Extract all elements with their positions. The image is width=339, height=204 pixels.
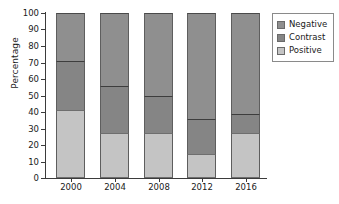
bar-segment-contrast[interactable] bbox=[56, 61, 85, 111]
bar-segment-negative[interactable] bbox=[56, 13, 85, 61]
y-tick-label: 0 bbox=[15, 174, 39, 183]
y-tick-label-text: 50 bbox=[17, 92, 39, 101]
x-tick-label: 2008 bbox=[139, 183, 179, 192]
legend-item-negative[interactable]: Negative bbox=[277, 18, 330, 31]
y-tick-label: 50 bbox=[15, 92, 39, 101]
x-tick-label: 2004 bbox=[95, 183, 135, 192]
y-tick-label: 60 bbox=[15, 75, 39, 84]
y-tick-label-text: 70 bbox=[17, 59, 39, 68]
bar-segment-positive[interactable] bbox=[187, 154, 216, 178]
plot-area bbox=[46, 13, 265, 178]
y-tick-label: 10 bbox=[15, 158, 39, 167]
chart-legend: NegativeContrastPositive bbox=[272, 13, 334, 62]
bar-group[interactable] bbox=[56, 13, 85, 178]
bar-segment-contrast[interactable] bbox=[144, 96, 173, 133]
legend-item-label: Negative bbox=[289, 20, 327, 29]
x-tick-label: 2000 bbox=[51, 183, 91, 192]
bar-segment-positive[interactable] bbox=[100, 133, 129, 178]
legend-item-contrast[interactable]: Contrast bbox=[277, 31, 330, 44]
legend-swatch-icon bbox=[277, 34, 285, 42]
y-tick-label-text: 20 bbox=[17, 141, 39, 150]
x-tick-label: 2016 bbox=[226, 183, 266, 192]
y-tick-label-text: 90 bbox=[17, 25, 39, 34]
y-tick-label-text: 100 bbox=[17, 9, 39, 18]
legend-swatch-icon bbox=[277, 21, 285, 29]
legend-item-label: Contrast bbox=[289, 33, 325, 42]
bar-group[interactable] bbox=[187, 13, 216, 178]
y-tick-label-text: 40 bbox=[17, 108, 39, 117]
y-tick-label: 70 bbox=[15, 59, 39, 68]
x-axis-line bbox=[41, 178, 267, 179]
y-tick-label-text: 0 bbox=[17, 174, 39, 183]
legend-item-positive[interactable]: Positive bbox=[277, 44, 330, 57]
bar-group[interactable] bbox=[144, 13, 173, 178]
y-tick-label-text: 30 bbox=[17, 125, 39, 134]
bar-segment-negative[interactable] bbox=[231, 13, 260, 114]
bar-group[interactable] bbox=[100, 13, 129, 178]
bar-segment-contrast[interactable] bbox=[100, 86, 129, 134]
y-tick-label: 80 bbox=[15, 42, 39, 51]
bar-group[interactable] bbox=[231, 13, 260, 178]
legend-item-label: Positive bbox=[289, 46, 322, 55]
x-tick-label: 2012 bbox=[182, 183, 222, 192]
y-tick-label-text: 10 bbox=[17, 158, 39, 167]
bar-segment-positive[interactable] bbox=[56, 110, 85, 178]
bar-segment-contrast[interactable] bbox=[231, 114, 260, 134]
y-tick-label: 40 bbox=[15, 108, 39, 117]
bar-segment-negative[interactable] bbox=[144, 13, 173, 96]
bar-segment-negative[interactable] bbox=[100, 13, 129, 86]
stacked-bar-chart: Percentage 1009080706050403020100 200020… bbox=[0, 0, 339, 204]
y-tick-label: 30 bbox=[15, 125, 39, 134]
legend-swatch-icon bbox=[277, 47, 285, 55]
y-tick-label: 90 bbox=[15, 25, 39, 34]
y-tick-label: 20 bbox=[15, 141, 39, 150]
bar-segment-negative[interactable] bbox=[187, 13, 216, 119]
y-tick-label-text: 80 bbox=[17, 42, 39, 51]
bar-segment-positive[interactable] bbox=[231, 133, 260, 178]
y-tick-mark bbox=[41, 178, 46, 179]
y-tick-label: 100 bbox=[15, 9, 39, 18]
bar-segment-positive[interactable] bbox=[144, 133, 173, 178]
y-tick-label-text: 60 bbox=[17, 75, 39, 84]
bar-segment-contrast[interactable] bbox=[187, 119, 216, 154]
